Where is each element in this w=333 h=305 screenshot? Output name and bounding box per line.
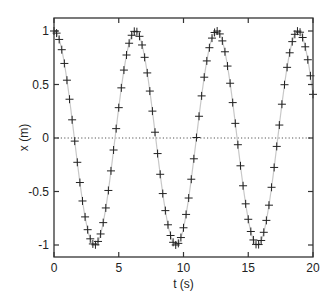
plus-marker (180, 224, 188, 232)
x-tick-label: 15 (242, 261, 256, 275)
plus-marker (141, 53, 149, 61)
plus-marker (205, 44, 213, 52)
plus-marker (63, 76, 71, 84)
plus-marker (268, 183, 276, 191)
y-tick-label: 0 (42, 131, 49, 145)
plus-marker (283, 63, 291, 71)
plus-marker (123, 51, 131, 59)
plus-marker (84, 226, 92, 234)
plus-marker (288, 38, 296, 46)
plus-marker (161, 207, 169, 215)
plus-marker (138, 41, 146, 49)
plus-marker (117, 84, 125, 92)
plus-marker (81, 213, 89, 221)
plus-marker (146, 87, 154, 95)
plus-marker (104, 186, 112, 194)
plus-marker (68, 116, 76, 124)
plus-marker (60, 59, 68, 67)
plus-marker (301, 43, 309, 51)
plus-marker (76, 179, 84, 187)
plus-marker (190, 155, 198, 163)
plus-marker (156, 170, 164, 178)
y-tick-label: -0.5 (28, 185, 49, 199)
plus-marker (231, 119, 239, 127)
plus-marker (242, 200, 250, 208)
x-tick-label: 0 (51, 261, 58, 275)
x-tick-label: 10 (177, 261, 191, 275)
plus-marker (304, 56, 312, 64)
y-tick-label: 0.5 (32, 78, 49, 92)
plus-marker (273, 142, 281, 150)
plus-marker (200, 73, 208, 81)
plus-marker (265, 201, 273, 209)
plus-marker (218, 37, 226, 45)
line-chart: 05101520 10.50-0.5-1 t (s) x (m) (0, 0, 333, 305)
x-tick-label: 20 (306, 261, 320, 275)
plus-marker (281, 81, 289, 89)
plus-marker (234, 141, 242, 149)
plus-marker (99, 219, 107, 227)
plus-marker (148, 107, 156, 115)
plus-marker (278, 100, 286, 108)
plus-marker (262, 216, 270, 224)
plus-marker (73, 158, 81, 166)
plus-marker (159, 190, 167, 198)
plus-marker (66, 95, 74, 103)
plus-marker (270, 163, 278, 171)
plus-marker (244, 215, 252, 223)
plus-marker (115, 104, 123, 112)
plus-marker (195, 112, 203, 120)
plus-marker (110, 146, 118, 154)
plus-marker (125, 39, 133, 47)
plus-marker (236, 162, 244, 170)
plus-marker (107, 167, 115, 175)
plus-marker (247, 227, 255, 235)
plus-marker (102, 204, 110, 212)
plus-marker (58, 46, 66, 54)
plus-marker (239, 182, 247, 190)
plus-marker (260, 228, 268, 236)
plus-marker (120, 66, 128, 74)
y-tick-label: 1 (42, 24, 49, 38)
plus-marker (203, 57, 211, 65)
y-axis-label: x (m) (17, 124, 31, 151)
y-tick-label: -1 (38, 238, 49, 252)
plus-marker (224, 62, 232, 70)
x-tick-label: 5 (115, 261, 122, 275)
x-axis-label: t (s) (173, 277, 194, 291)
plus-marker (154, 150, 162, 158)
plus-marker (185, 194, 193, 202)
plus-marker (182, 210, 190, 218)
plus-marker (164, 221, 172, 229)
plus-marker (286, 49, 294, 57)
plus-marker (112, 125, 120, 133)
plus-marker (221, 48, 229, 56)
plus-marker (78, 197, 86, 205)
plus-marker (198, 92, 206, 100)
plus-marker (97, 230, 105, 238)
plus-marker (192, 134, 200, 142)
plus-marker (143, 69, 151, 77)
plus-marker (229, 99, 237, 107)
plus-marker (187, 175, 195, 183)
plus-marker (151, 128, 159, 136)
plus-marker (167, 231, 175, 239)
plus-marker (226, 79, 234, 87)
plus-marker (275, 121, 283, 129)
